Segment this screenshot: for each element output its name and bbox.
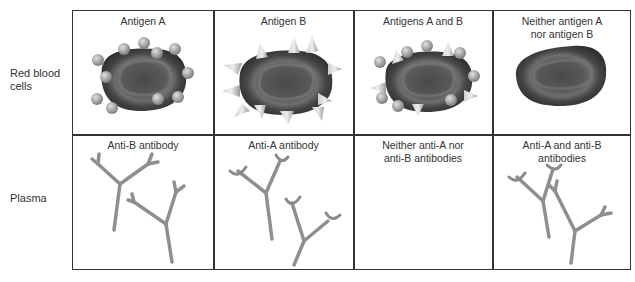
anti-a-and-anti-b-antibody-icon: [505, 165, 620, 267]
red-blood-cell-no-antigen-icon: [512, 42, 612, 112]
rbc-title-neither-antigen: Neither antigen A nor antigen B: [493, 15, 631, 40]
anti-a-antibody-icon: [228, 155, 346, 267]
rbc-title-antigens-a-and-b: Antigens A and B: [354, 15, 492, 28]
row-label-red-blood-cells: Red blood cells: [10, 67, 60, 93]
plasma-title-anti-a: Anti-A antibody: [214, 139, 353, 152]
red-blood-cell-antigen-a-icon: [88, 35, 198, 120]
rbc-title-antigen-b: Antigen B: [214, 15, 353, 28]
anti-b-antibody-icon: [90, 152, 205, 267]
rbc-title-antigen-a: Antigen A: [73, 15, 213, 28]
row-label-plasma: Plasma: [10, 192, 47, 205]
red-blood-cell-antigens-a-and-b-icon: [370, 38, 485, 118]
row-divider: [72, 134, 631, 136]
red-blood-cell-antigen-b-icon: [222, 35, 347, 125]
plasma-title-anti-a-and-anti-b: Anti-A and anti-B antibodies: [493, 139, 631, 164]
plasma-title-neither-antibody: Neither anti-A nor anti-B antibodies: [354, 139, 492, 164]
plasma-title-anti-b: Anti-B antibody: [73, 139, 213, 152]
